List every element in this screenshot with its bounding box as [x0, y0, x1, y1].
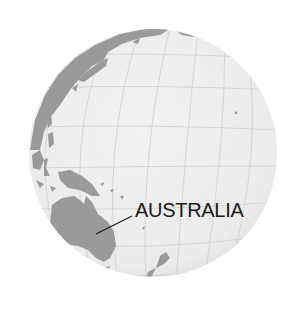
- globe-graphic: [0, 0, 293, 310]
- globe-map: AUSTRALIA: [0, 0, 293, 310]
- label-australia: AUSTRALIA: [135, 200, 243, 220]
- landmass-hawaii: [235, 112, 238, 115]
